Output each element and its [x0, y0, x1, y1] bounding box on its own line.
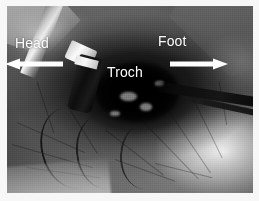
tissue-glint — [140, 103, 152, 110]
figure-root: Head Troch Foot — [0, 0, 259, 201]
surgical-photograph — [7, 6, 253, 193]
